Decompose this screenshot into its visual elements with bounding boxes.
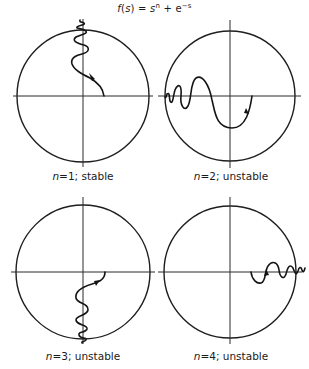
panel-n2 bbox=[158, 20, 301, 168]
contour-curve bbox=[76, 272, 105, 343]
caption-text: =1; stable bbox=[59, 170, 113, 182]
caption-text: =3; unstable bbox=[52, 350, 120, 362]
panel-n4 bbox=[158, 197, 305, 344]
panel-n3 bbox=[11, 197, 155, 344]
caption-n2: n=2; unstable bbox=[161, 170, 301, 182]
nyquist-figure bbox=[0, 0, 309, 369]
direction-arrow bbox=[94, 280, 100, 286]
caption-n3: n=3; unstable bbox=[13, 350, 153, 362]
caption-text: =2; unstable bbox=[200, 170, 268, 182]
caption-n4: n=4; unstable bbox=[161, 350, 301, 362]
caption-text: =4; unstable bbox=[200, 350, 268, 362]
contour-curve bbox=[165, 77, 252, 128]
contour-curve bbox=[251, 263, 305, 284]
panel-n1 bbox=[13, 19, 153, 167]
caption-n1: n=1; stable bbox=[13, 170, 153, 182]
